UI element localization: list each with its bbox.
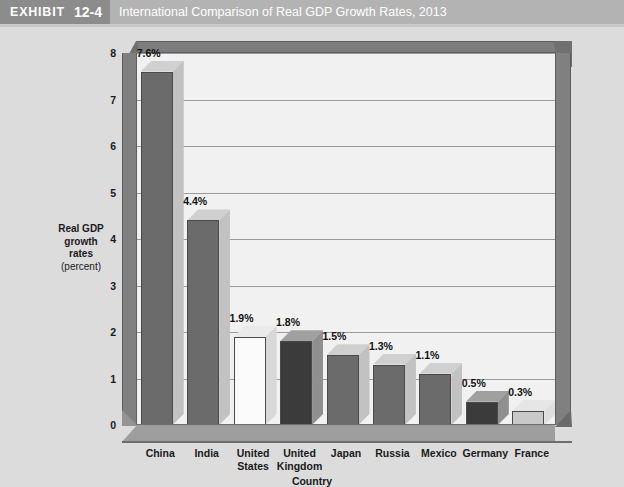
bar-front-face <box>373 365 405 425</box>
plot-frame-right-wall <box>555 53 571 425</box>
plot-floor-bottom-edge <box>122 441 572 443</box>
plot-frame-top <box>136 41 570 53</box>
y-tick-label: 6 <box>100 141 116 151</box>
y-tick-label: 0 <box>100 420 116 430</box>
bar-side-face <box>405 354 416 425</box>
gridline <box>137 100 555 101</box>
bar-side-face <box>266 326 277 425</box>
y-axis-title: Real GDP growth rates (percent) <box>44 223 118 273</box>
bar <box>280 330 323 425</box>
bar-front-face <box>141 72 173 425</box>
bar-value-label: 0.5% <box>462 377 486 389</box>
bar <box>466 391 509 425</box>
bar <box>234 326 277 425</box>
x-tick-label: France <box>503 447 561 460</box>
x-tick-label-line: Kingdom <box>270 460 328 473</box>
bar <box>419 363 462 425</box>
bar <box>187 209 230 425</box>
y-tick-label: 8 <box>100 48 116 58</box>
exhibit-label: EXHIBIT <box>10 5 65 19</box>
bar-value-label: 1.1% <box>415 349 439 361</box>
gridline <box>137 53 555 54</box>
exhibit-number: 12-4 <box>74 4 102 20</box>
bar-front-face <box>187 220 219 425</box>
y-tick-label: 1 <box>100 374 116 384</box>
bar <box>512 400 555 425</box>
x-axis-title: Country <box>0 475 624 487</box>
plot-floor-left-bevel <box>122 425 137 442</box>
y-axis-title-line-2: rates <box>44 248 118 261</box>
bar <box>327 344 370 425</box>
plot-wall <box>137 53 555 425</box>
bar-value-label: 1.3% <box>369 340 393 352</box>
y-tick-label: 4 <box>100 234 116 244</box>
bar-value-label: 1.9% <box>230 312 254 324</box>
bar-value-label: 1.5% <box>323 330 347 342</box>
chart-area: Real GDP growth rates (percent) 01234567… <box>0 27 624 483</box>
gridline <box>137 146 555 147</box>
bar-front-face <box>327 355 359 425</box>
bar-value-label: 4.4% <box>183 195 207 207</box>
plot-floor <box>137 425 555 442</box>
bar-side-face <box>312 330 323 425</box>
bar-side-face <box>359 344 370 425</box>
bar-value-label: 0.3% <box>508 386 532 398</box>
bar-value-label: 7.6% <box>137 47 161 59</box>
bar <box>141 61 184 425</box>
y-tick-label: 5 <box>100 188 116 198</box>
exhibit-header-band: EXHIBIT 12-4 International Comparison of… <box>0 0 624 24</box>
y-axis-title-unit: (percent) <box>44 261 118 274</box>
y-tick-label: 2 <box>100 327 116 337</box>
y-tick-label: 3 <box>100 281 116 291</box>
bar-side-face <box>173 61 184 425</box>
bar-front-face <box>234 337 266 425</box>
bar-value-label: 1.8% <box>276 316 300 328</box>
bar-front-face <box>419 374 451 425</box>
bar-front-face <box>280 341 312 425</box>
bar <box>373 354 416 425</box>
exhibit-badge: EXHIBIT 12-4 <box>0 0 110 24</box>
exhibit-title: International Comparison of Real GDP Gro… <box>119 0 447 24</box>
bar-side-face <box>219 209 230 425</box>
gridline <box>137 193 555 194</box>
bar-front-face <box>512 411 544 425</box>
plot-frame-left-wall <box>122 53 137 425</box>
y-tick-label: 7 <box>100 95 116 105</box>
bar-front-face <box>466 402 498 425</box>
x-tick-label-line: France <box>503 447 561 460</box>
